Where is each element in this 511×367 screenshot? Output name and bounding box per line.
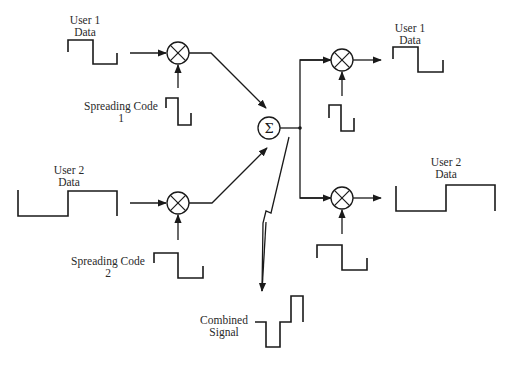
- user2-input-label-line2: Data: [50, 176, 88, 188]
- user2-output-label-line2: Data: [427, 168, 465, 180]
- spreading-code-2-waveform: [154, 253, 203, 278]
- multiplier-4-icon: [331, 187, 353, 209]
- multiplier-3-icon: [331, 49, 353, 71]
- user1-output-label-line1: User 1: [391, 22, 429, 34]
- mult1-to-summer-wire: [189, 53, 266, 108]
- user1-input-label-line2: Data: [66, 26, 104, 38]
- spreading-code-1-label: Spreading Code 1: [82, 100, 160, 124]
- split-bus-wire: [300, 60, 330, 198]
- mult2-to-summer-wire: [189, 148, 267, 203]
- user2-output-label: User 2 Data: [427, 156, 465, 180]
- user1-input-label-line1: User 1: [66, 14, 104, 26]
- user1-input-label: User 1 Data: [66, 14, 104, 38]
- user1-output-waveform: [393, 47, 443, 72]
- spreading-code-2-label-line2: 2: [68, 267, 148, 279]
- combined-signal-label-line2: Signal: [197, 326, 251, 338]
- transmission-lightning-wire: [262, 137, 289, 291]
- spreading-code-1-waveform: [166, 98, 191, 125]
- user2-output-label-line1: User 2: [427, 156, 465, 168]
- user1-output-label: User 1 Data: [391, 22, 429, 46]
- spreading-code-2-label: Spreading Code 2: [68, 255, 148, 279]
- spreading-code-1-label-line1: Spreading Code: [82, 100, 160, 112]
- combined-signal-label-line1: Combined: [197, 314, 251, 326]
- despread-code-1-waveform: [329, 105, 354, 131]
- summation-icon: Σ: [258, 117, 280, 139]
- multiplier-1-icon: [167, 42, 189, 64]
- despread-code-2-waveform: [317, 245, 367, 270]
- user2-output-waveform: [396, 185, 495, 211]
- svg-text:Σ: Σ: [264, 121, 273, 136]
- spreading-code-2-label-line1: Spreading Code: [68, 255, 148, 267]
- user1-input-waveform: [68, 40, 117, 64]
- multiplier-2-icon: [167, 192, 189, 214]
- combined-signal-waveform: [255, 296, 303, 347]
- user2-input-label-line1: User 2: [50, 164, 88, 176]
- user2-input-waveform: [18, 190, 117, 216]
- user1-output-label-line2: Data: [391, 34, 429, 46]
- user2-input-label: User 2 Data: [50, 164, 88, 188]
- cdma-diagram: Σ User 1 Data Spreading Co: [0, 0, 511, 367]
- spreading-code-1-label-line2: 1: [82, 112, 160, 124]
- combined-signal-label: Combined Signal: [197, 314, 251, 338]
